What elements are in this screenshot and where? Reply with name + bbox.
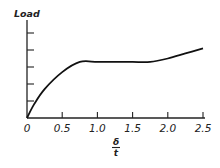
x-tick-label: 0.5: [54, 122, 71, 134]
x-tick-label: 1.5: [124, 122, 141, 134]
load-curve: [27, 48, 203, 118]
y-axis-ticks: [27, 33, 34, 101]
x-axis-title: δ t: [112, 137, 120, 158]
load-deflection-chart: Load 00.51.01.52.02.5 δ t: [0, 0, 220, 168]
x-tick-label: 2.0: [159, 122, 176, 134]
y-axis-title: Load: [14, 8, 40, 19]
x-tick-label: 1.0: [89, 122, 106, 134]
x-tick-label: 2.5: [195, 122, 212, 134]
x-axis-title-numerator: δ: [113, 137, 119, 147]
x-axis-ticks: [62, 112, 203, 118]
x-tick-label: 0: [24, 122, 31, 134]
x-axis-title-denominator: t: [114, 148, 119, 158]
x-axis-tick-labels: 00.51.01.52.02.5: [24, 122, 212, 134]
